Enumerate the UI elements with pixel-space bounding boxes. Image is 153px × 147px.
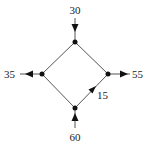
edge-left-bottom [42, 74, 75, 108]
flow-diagram: 30 35 55 60 15 [0, 0, 153, 147]
label-left-out: 35 [4, 68, 16, 80]
label-bottom-in: 60 [70, 131, 82, 143]
label-top-in: 30 [70, 4, 82, 16]
node-left [40, 72, 45, 77]
arrow-right-icon [120, 71, 128, 78]
label-edge-bottom-right: 15 [97, 89, 109, 101]
node-right [106, 72, 111, 77]
label-right-out: 55 [132, 68, 144, 80]
node-top [73, 40, 78, 45]
node-bottom [73, 106, 78, 111]
edge-top-right [75, 42, 108, 74]
arrow-down-icon [72, 24, 79, 32]
arrow-up-icon [72, 113, 79, 121]
arrow-left-icon [25, 71, 33, 78]
edge-top-left [42, 42, 75, 74]
